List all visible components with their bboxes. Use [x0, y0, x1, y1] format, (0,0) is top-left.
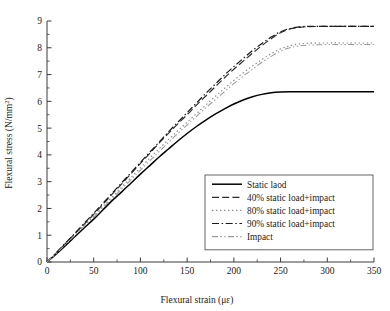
y-tick-label: 9: [37, 16, 42, 26]
y-axis: 0123456789: [37, 16, 51, 267]
y-tick-label: 0: [37, 257, 42, 267]
legend-item-label: 40% static load+impact: [247, 193, 335, 203]
y-axis-title-tail: ): [4, 97, 15, 100]
y-tick-label: 4: [37, 150, 42, 160]
y-tick-label: 1: [37, 231, 42, 241]
y-axis-title: Flexural stress (N/mm2): [3, 97, 16, 188]
x-tick-label: 350: [367, 266, 382, 276]
x-axis-title: Flexural strain (με): [161, 295, 234, 306]
x-tick-label: 150: [180, 266, 195, 276]
legend: Static laod40% static load+impact80% sta…: [205, 175, 373, 250]
legend-item-label: 90% static load+impact: [247, 219, 335, 229]
y-axis-title-main: Flexural stress (N/mm: [4, 103, 15, 189]
x-axis: 050100150200250300350: [45, 258, 382, 277]
legend-item-label: Impact: [247, 232, 273, 242]
y-tick-label: 6: [37, 97, 42, 107]
x-tick-label: 50: [89, 266, 99, 276]
legend-item-label: Static laod: [247, 180, 287, 190]
flexural-stress-strain-chart: 0123456789 050100150200250300350 Flexura…: [0, 0, 390, 311]
x-tick-label: 0: [45, 266, 50, 276]
legend-item-label: 80% static load+impact: [247, 206, 335, 216]
x-tick-label: 300: [320, 266, 335, 276]
x-tick-label: 100: [133, 266, 148, 276]
x-tick-label: 200: [227, 266, 242, 276]
chart-svg: 0123456789 050100150200250300350 Flexura…: [0, 0, 390, 311]
y-tick-label: 2: [37, 204, 42, 214]
y-tick-label: 3: [37, 177, 42, 187]
y-tick-label: 8: [37, 43, 42, 53]
svg-text:Flexural stress (N/mm2): Flexural stress (N/mm2): [3, 97, 16, 188]
y-tick-label: 5: [37, 124, 42, 134]
x-tick-label: 250: [273, 266, 288, 276]
y-tick-label: 7: [37, 70, 42, 80]
